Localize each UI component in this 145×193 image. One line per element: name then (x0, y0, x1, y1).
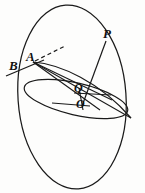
figure-canvas (0, 0, 145, 193)
point-label-P: P (103, 27, 111, 40)
tangent-ray-from-A (35, 46, 65, 61)
point-label-O: O (76, 98, 85, 110)
point-label-B: B (9, 59, 18, 72)
point-label-A: A (26, 50, 35, 63)
point-label-Q: Q (74, 82, 83, 94)
geometry-figure: A B P Q O (0, 0, 145, 193)
